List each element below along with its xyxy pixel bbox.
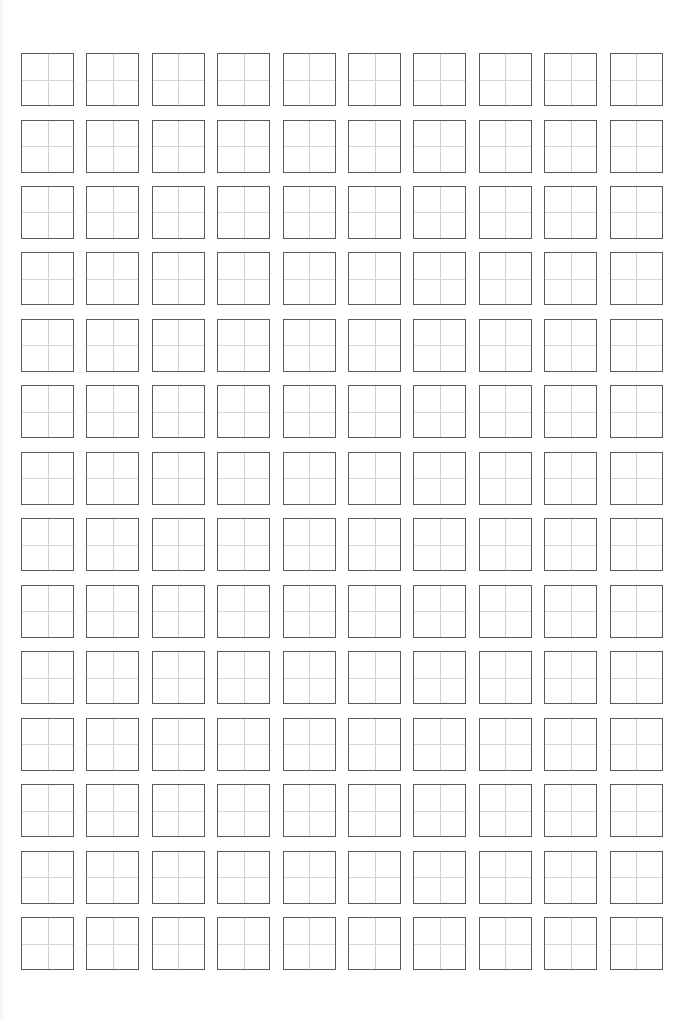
tianzige-cell [610, 186, 663, 239]
tianzige-cell [217, 851, 270, 904]
tianzige-cell [283, 186, 336, 239]
horizontal-guide-line [284, 545, 335, 546]
horizontal-guide-line [22, 146, 73, 147]
horizontal-guide-line [87, 345, 138, 346]
tianzige-cell [86, 518, 139, 571]
horizontal-guide-line [22, 478, 73, 479]
horizontal-guide-line [22, 212, 73, 213]
horizontal-guide-line [218, 279, 269, 280]
horizontal-guide-line [218, 744, 269, 745]
tianzige-cell [21, 518, 74, 571]
tianzige-cell [283, 784, 336, 837]
tianzige-cell [479, 851, 532, 904]
tianzige-cell [152, 252, 205, 305]
horizontal-guide-line [153, 545, 204, 546]
tianzige-cell [21, 53, 74, 106]
tianzige-cell [544, 784, 597, 837]
horizontal-guide-line [611, 80, 662, 81]
horizontal-guide-line [480, 279, 531, 280]
horizontal-guide-line [545, 611, 596, 612]
horizontal-guide-line [22, 545, 73, 546]
horizontal-guide-line [153, 944, 204, 945]
tianzige-cell [152, 784, 205, 837]
tianzige-cell [283, 651, 336, 704]
horizontal-guide-line [284, 478, 335, 479]
horizontal-guide-line [480, 80, 531, 81]
horizontal-guide-line [545, 412, 596, 413]
tianzige-cell [413, 518, 466, 571]
tianzige-cell [86, 186, 139, 239]
horizontal-guide-line [87, 611, 138, 612]
tianzige-cell [413, 252, 466, 305]
tianzige-cell [479, 186, 532, 239]
horizontal-guide-line [611, 412, 662, 413]
horizontal-guide-line [218, 811, 269, 812]
tianzige-cell [283, 518, 336, 571]
horizontal-guide-line [349, 478, 400, 479]
horizontal-guide-line [284, 212, 335, 213]
tianzige-cell [479, 917, 532, 970]
tianzige-cell [544, 651, 597, 704]
tianzige-cell [479, 252, 532, 305]
horizontal-guide-line [349, 944, 400, 945]
horizontal-guide-line [284, 412, 335, 413]
tianzige-cell [21, 917, 74, 970]
tianzige-cell [217, 319, 270, 372]
tianzige-cell [610, 851, 663, 904]
tianzige-cell [610, 585, 663, 638]
tianzige-cell [544, 53, 597, 106]
horizontal-guide-line [545, 80, 596, 81]
horizontal-guide-line [87, 146, 138, 147]
tianzige-cell [152, 917, 205, 970]
tianzige-cell [21, 452, 74, 505]
tianzige-cell [413, 585, 466, 638]
tianzige-cell [610, 718, 663, 771]
tianzige-cell [217, 452, 270, 505]
tianzige-cell [610, 53, 663, 106]
tianzige-cell [152, 120, 205, 173]
horizontal-guide-line [218, 412, 269, 413]
horizontal-guide-line [153, 744, 204, 745]
tianzige-cell [152, 53, 205, 106]
horizontal-guide-line [545, 279, 596, 280]
horizontal-guide-line [284, 744, 335, 745]
tianzige-cell [544, 851, 597, 904]
tianzige-cell [413, 120, 466, 173]
tianzige-cell [610, 252, 663, 305]
tianzige-cell [348, 851, 401, 904]
tianzige-cell [610, 518, 663, 571]
tianzige-cell [152, 851, 205, 904]
horizontal-guide-line [545, 811, 596, 812]
horizontal-guide-line [153, 80, 204, 81]
tianzige-cell [413, 917, 466, 970]
horizontal-guide-line [218, 478, 269, 479]
tianzige-cell [217, 917, 270, 970]
horizontal-guide-line [611, 678, 662, 679]
horizontal-guide-line [414, 345, 465, 346]
horizontal-guide-line [22, 811, 73, 812]
tianzige-cell [413, 452, 466, 505]
horizontal-guide-line [611, 146, 662, 147]
horizontal-guide-line [218, 80, 269, 81]
tianzige-cell [479, 120, 532, 173]
horizontal-guide-line [22, 877, 73, 878]
horizontal-guide-line [611, 345, 662, 346]
tianzige-cell [413, 651, 466, 704]
horizontal-guide-line [545, 877, 596, 878]
tianzige-cell [413, 851, 466, 904]
tianzige-cell [217, 718, 270, 771]
tianzige-cell [217, 252, 270, 305]
horizontal-guide-line [349, 212, 400, 213]
tianzige-cell [348, 585, 401, 638]
horizontal-guide-line [545, 944, 596, 945]
horizontal-guide-line [414, 811, 465, 812]
tianzige-cell [544, 917, 597, 970]
tianzige-cell [86, 252, 139, 305]
tianzige-cell [86, 784, 139, 837]
horizontal-guide-line [153, 877, 204, 878]
tianzige-cell [348, 518, 401, 571]
horizontal-guide-line [87, 80, 138, 81]
horizontal-guide-line [414, 146, 465, 147]
horizontal-guide-line [349, 146, 400, 147]
tianzige-cell [217, 385, 270, 438]
